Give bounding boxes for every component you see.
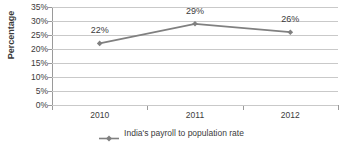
x-tick-label: 2011 (186, 110, 204, 120)
y-tick-label: 5% (36, 86, 48, 96)
legend-label-series-0: India's payroll to population rate (124, 128, 244, 138)
y-tick-label: 30% (31, 16, 48, 26)
data-point-label: 29% (186, 6, 204, 16)
y-axis-title: Percentage (6, 0, 20, 70)
chart-legend: India's payroll to population rate (0, 128, 343, 138)
x-tick-mark (243, 106, 244, 110)
y-tick-mark (48, 77, 52, 78)
line-chart: Percentage 0%5%10%15%20%25%30%35% India'… (0, 0, 343, 147)
x-tick-mark (338, 106, 339, 110)
y-tick-label: 20% (31, 44, 48, 54)
y-axis-tick-labels: 0%5%10%15%20%25%30%35% (22, 0, 50, 107)
y-tick-mark (48, 91, 52, 92)
y-tick-mark (48, 49, 52, 50)
y-tick-mark (48, 63, 52, 64)
x-tick-label: 2010 (90, 110, 109, 120)
y-tick-label: 10% (31, 72, 48, 82)
y-tick-label: 15% (31, 58, 48, 68)
y-tick-label: 25% (31, 30, 48, 40)
gridline (52, 91, 338, 92)
gridline (52, 49, 338, 50)
y-tick-label: 35% (31, 2, 48, 12)
y-tick-mark (48, 35, 52, 36)
x-tick-label: 2012 (281, 110, 300, 120)
data-point-label: 26% (281, 14, 299, 24)
y-tick-label: 0% (36, 100, 48, 110)
x-tick-mark (147, 106, 148, 110)
gridline (52, 63, 338, 64)
legend-marker-icon (99, 129, 119, 138)
gridline (52, 105, 338, 106)
y-tick-mark (48, 7, 52, 8)
gridline (52, 77, 338, 78)
x-tick-mark (52, 106, 53, 110)
data-point-label: 22% (91, 25, 109, 35)
y-tick-mark (48, 21, 52, 22)
